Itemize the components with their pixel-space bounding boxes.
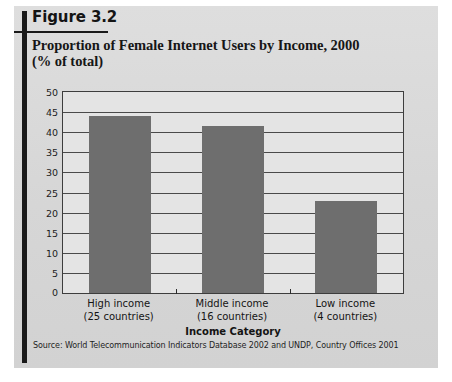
figure-root: Figure 3.2 Proportion of Female Internet… [0, 0, 452, 382]
y-axis-tick-label: 40 [46, 127, 58, 138]
x-tick-mark [176, 289, 177, 294]
figure-label-underline [14, 31, 108, 33]
y-axis-tick-label: 35 [46, 147, 58, 158]
category-country-count: (4 countries) [289, 311, 402, 324]
x-tick-mark [290, 289, 291, 294]
y-axis-tick-label: 30 [46, 167, 58, 178]
y-axis-tick-label: 25 [46, 187, 58, 198]
bar [89, 116, 151, 293]
x-axis-category-label: High income(25 countries) [62, 298, 175, 323]
y-axis-tick-label: 15 [46, 227, 58, 238]
y-axis-tick-label: 45 [46, 107, 58, 118]
x-axis-category-label: Middle income(16 countries) [175, 298, 288, 323]
x-axis-category-label: Low income(4 countries) [289, 298, 402, 323]
source-note: Source: World Telecommunication Indicato… [33, 341, 425, 350]
figure-title: Proportion of Female Internet Users by I… [32, 38, 422, 69]
category-name: High income [87, 298, 150, 309]
category-name: Low income [316, 298, 376, 309]
category-country-count: (16 countries) [175, 311, 288, 324]
category-name: Middle income [196, 298, 269, 309]
bars-group [63, 92, 403, 293]
x-axis-labels: High income(25 countries)Middle income(1… [62, 298, 404, 328]
bar-chart: 50454035302520151050 High income(25 coun… [30, 86, 426, 336]
y-axis-tick-label: 50 [46, 87, 58, 98]
figure-title-line-2: (% of total) [32, 53, 103, 69]
figure-title-line-1: Proportion of Female Internet Users by I… [32, 37, 359, 53]
bar [315, 201, 377, 293]
y-axis-tick-label: 5 [52, 267, 58, 278]
category-country-count: (25 countries) [62, 311, 175, 324]
bar [202, 126, 264, 293]
left-vertical-rule [22, 11, 27, 363]
x-axis-title: Income Category [62, 326, 404, 337]
plot-area: 50454035302520151050 [62, 91, 404, 294]
y-axis-tick-label: 10 [46, 247, 58, 258]
y-axis-tick-label: 20 [46, 207, 58, 218]
y-axis-tick-label: 0 [52, 287, 58, 298]
figure-number-label: Figure 3.2 [32, 8, 117, 26]
